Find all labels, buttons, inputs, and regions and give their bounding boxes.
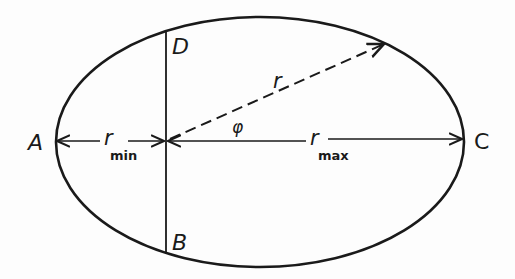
point-label-d: D (172, 34, 189, 59)
radius-label-r: r (273, 69, 283, 93)
point-label-a: A (26, 130, 43, 155)
rmin-subscript: min (110, 148, 137, 163)
point-label-b: B (172, 230, 187, 255)
rmax-subscript: max (318, 148, 349, 163)
diagram-canvas: A B C D r φ r min r max (0, 0, 515, 279)
rmax-label: r (310, 126, 320, 150)
ellipse-diagram: A B C D r φ r min r max (0, 0, 515, 279)
angle-label-phi: φ (232, 117, 244, 137)
orbit-ellipse (56, 17, 464, 267)
rmin-label: r (104, 126, 114, 150)
point-label-c: C (474, 129, 489, 154)
